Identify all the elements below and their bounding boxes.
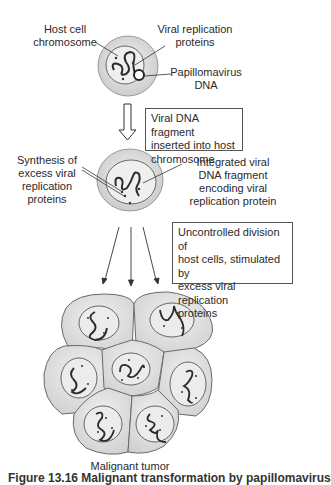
label-synthesis: Synthesis of excess viral replication pr… [8,154,86,206]
label-integrated-fragment: Integrated viral DNA fragment encoding v… [178,156,288,208]
label-line: Viral replication [150,23,240,36]
label-host-chromosome: Host cell chromosome [28,23,102,49]
label-line: DNA fragment [178,169,288,182]
box-line: host cells, stimulated by [178,253,287,280]
label-papillomavirus-dna: Papillomavirus DNA [168,66,244,92]
label-line: chromosome [28,36,102,49]
label-line: DNA [168,79,244,92]
box-line: Uncontrolled division of [178,226,287,253]
label-line: Integrated viral [178,156,288,169]
label-line: excess viral [8,167,86,180]
label-line: Papillomavirus [168,66,244,79]
info-box-uncontrolled-division: Uncontrolled division of host cells, sti… [172,222,293,284]
label-line: replication protein [178,195,288,208]
label-line: Synthesis of [8,154,86,167]
division-arrows [102,227,159,286]
label-line: proteins [150,36,240,49]
label-line: Host cell [28,23,102,36]
label-line: proteins [8,193,86,206]
box-line: Viral DNA fragment [151,112,237,139]
box-line: inserted into host [151,139,237,153]
label-line: encoding viral [178,182,288,195]
box-line: proteins [178,307,287,321]
info-box-dna-insertion: Viral DNA fragment inserted into host ch… [145,108,243,151]
label-viral-proteins: Viral replication proteins [150,23,240,49]
box-line: excess viral replication [178,280,287,307]
down-arrow-icon [119,104,136,140]
label-line: replication [8,180,86,193]
figure-caption-partial: Figure 13.16 Malignant transformation by… [0,471,320,485]
